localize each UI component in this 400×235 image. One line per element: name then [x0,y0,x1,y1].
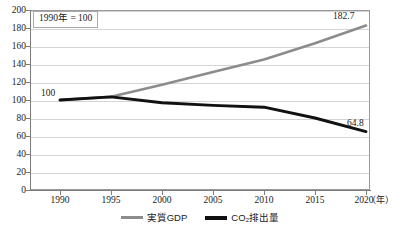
data-label-co2-end: 64.8 [347,119,364,129]
y-tick-mark [26,190,30,191]
y-tick-label-20: 20 [0,168,26,178]
series-line-gdp [60,26,366,100]
y-tick-label-200: 200 [0,6,26,16]
x-tick-label-1990: 1990 [37,196,83,206]
y-tick-label-0: 0 [0,186,26,196]
x-tick-label-2010: 2010 [241,196,287,206]
y-tick-label-40: 40 [0,150,26,160]
data-label-gdp-end: 182.7 [333,12,354,22]
x-axis-unit-label: （年） [367,196,394,205]
data-label-start: 100 [41,89,55,99]
legend-label-co2: CO₂排出量 [231,213,279,223]
y-tick-label-180: 180 [0,24,26,34]
x-tick-label-1995: 1995 [88,196,134,206]
chart-legend: 実質GDP CO₂排出量 [0,213,400,223]
legend-item-gdp[interactable]: 実質GDP [121,213,188,223]
y-tick-label-160: 160 [0,42,26,52]
x-tick-label-2005: 2005 [190,196,236,206]
y-tick-label-100: 100 [0,96,26,106]
legend-label-gdp: 実質GDP [147,213,188,223]
y-tick-label-140: 140 [0,60,26,70]
legend-swatch-co2-icon [205,216,227,220]
chart-container: 200 180 160 140 120 100 80 60 40 20 0 19… [0,0,400,235]
y-tick-label-60: 60 [0,132,26,142]
series-line-co2 [60,97,366,132]
note-box: 1990年 = 100 [33,11,98,28]
y-tick-label-80: 80 [0,114,26,124]
legend-item-co2[interactable]: CO₂排出量 [205,213,279,223]
series-lines [30,10,370,190]
x-tick-label-2015: 2015 [292,196,338,206]
y-tick-label-120: 120 [0,78,26,88]
legend-swatch-gdp-icon [121,216,143,219]
x-tick-label-2000: 2000 [139,196,185,206]
x-axis-line [30,190,371,191]
